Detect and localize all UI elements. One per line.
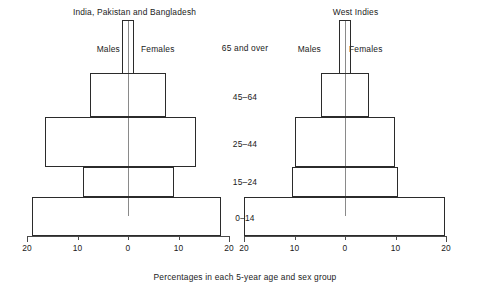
bar-15-24	[292, 167, 398, 197]
panel-title: West Indies	[233, 7, 478, 17]
chart-caption: Percentages in each 5-year age and sex g…	[0, 272, 490, 282]
tick-label-left-10: 10	[280, 243, 310, 253]
tick-label-zero: 0	[330, 243, 360, 253]
bar-15-24	[83, 167, 174, 197]
bar-25-44	[45, 117, 197, 167]
chart-canvas: India, Pakistan and Bangladesh Males Fem…	[0, 0, 490, 289]
panel-title: India, Pakistan and Bangladesh	[12, 7, 257, 17]
bar-0-14	[32, 197, 221, 236]
tick-label-right-20: 20	[431, 243, 461, 253]
bar-65-and-over	[339, 20, 351, 73]
tick-label-right-10: 10	[164, 243, 194, 253]
tick-label-left-10: 10	[63, 243, 93, 253]
tick-label-left-20: 20	[229, 243, 259, 253]
bar-25-44	[295, 117, 395, 167]
tick-minus20	[27, 236, 28, 242]
tick-label-right-10: 10	[381, 243, 411, 253]
bar-45-64	[90, 73, 166, 117]
panel-west-indies: West Indies Males Females 20 10 0 10 20	[245, 0, 490, 270]
tick-minus10	[295, 236, 296, 240]
tick-minus20	[244, 236, 245, 242]
tick-plus10	[179, 236, 180, 240]
tick-minus10	[78, 236, 79, 240]
tick-label-left-20: 20	[12, 243, 42, 253]
tick-label-zero: 0	[113, 243, 143, 253]
bar-0-14	[244, 197, 445, 236]
tick-zero	[128, 236, 129, 240]
tick-plus10	[396, 236, 397, 240]
tick-zero	[345, 236, 346, 240]
tick-plus20	[446, 236, 447, 242]
bar-65-and-over	[122, 20, 134, 73]
plot-area: 20 10 0 10 20	[245, 20, 490, 242]
bar-45-64	[321, 73, 370, 117]
